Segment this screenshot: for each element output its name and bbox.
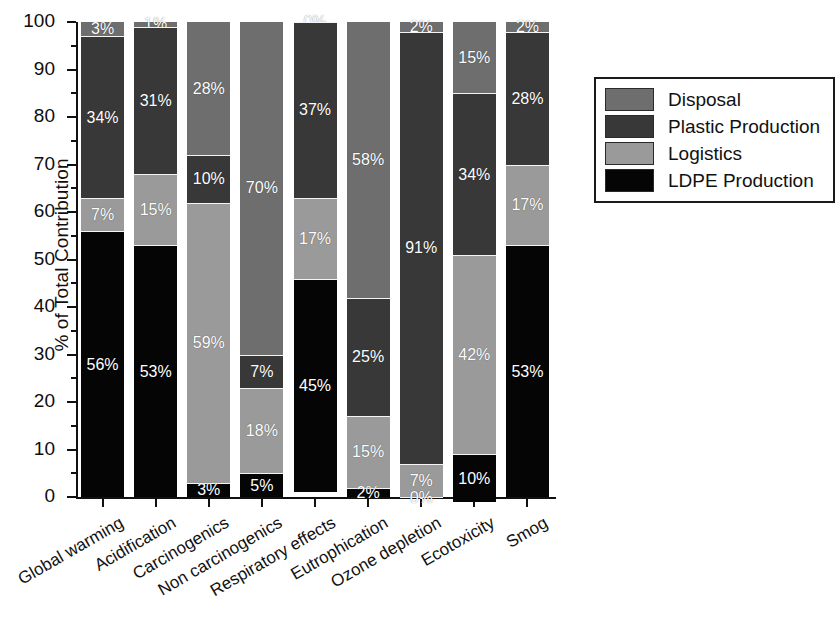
bar-segment[interactable]: 42%	[453, 255, 496, 455]
bar-segment[interactable]: 15%	[347, 416, 390, 487]
bar-segment[interactable]: 34%	[81, 36, 124, 198]
y-tick-minor	[71, 140, 76, 142]
bar-segment-label: 45%	[299, 378, 331, 394]
bar-segment-label: 15%	[140, 202, 172, 218]
y-tick-minor	[71, 235, 76, 237]
bar-segment-label: 42%	[458, 347, 490, 363]
y-tick-label: 40	[34, 295, 55, 317]
legend-item[interactable]: Disposal	[605, 86, 820, 113]
legend-label: Logistics	[668, 143, 742, 165]
x-axis-category-label: Smog	[503, 513, 551, 553]
bar-segment[interactable]: 56%	[81, 231, 124, 497]
bar-segment[interactable]: 28%	[506, 32, 549, 165]
bar-column[interactable]: 0%37%17%45%	[294, 22, 337, 497]
bar-segment[interactable]: 25%	[347, 298, 390, 417]
bar-segment[interactable]: 31%	[134, 27, 177, 174]
y-tick-label: 80	[34, 105, 55, 127]
bar-segment[interactable]: 53%	[506, 245, 549, 497]
bar-segment-label: 3%	[197, 482, 220, 498]
bar-segment-label: 15%	[352, 444, 384, 460]
y-tick-minor	[71, 92, 76, 94]
bar-segment[interactable]: 2%	[347, 488, 390, 498]
bar-segment-label: 53%	[140, 364, 172, 380]
bar-segment[interactable]: 3%	[81, 22, 124, 36]
bar-segment[interactable]: 0%	[400, 497, 443, 498]
bar-segment-label: 25%	[352, 349, 384, 365]
bar-segment[interactable]: 2%	[506, 22, 549, 32]
y-tick-minor	[71, 472, 76, 474]
plot-area: 0102030405060708090100 3%34%7%56%1%31%15…	[76, 22, 554, 497]
bar-segment[interactable]: 2%	[400, 22, 443, 32]
bar-segment[interactable]: 91%	[400, 32, 443, 464]
y-tick-major: 50	[67, 259, 76, 261]
x-tick	[208, 497, 210, 507]
legend-label: Plastic Production	[668, 116, 820, 138]
bar-segment-label: 70%	[246, 180, 278, 196]
y-tick-minor	[71, 330, 76, 332]
legend: DisposalPlastic ProductionLogisticsLDPE …	[594, 77, 835, 203]
y-tick-label: 10	[34, 437, 55, 459]
bar-column[interactable]: 2%28%17%53%	[506, 22, 549, 497]
bar-segment[interactable]: 10%	[187, 155, 230, 203]
bar-segment[interactable]: 15%	[453, 22, 496, 93]
bar-segment-label: 2%	[357, 485, 380, 501]
bar-segment-label: 91%	[405, 240, 437, 256]
bar-column[interactable]: 1%31%15%53%	[134, 22, 177, 497]
legend-label: LDPE Production	[668, 170, 814, 192]
y-tick-label: 20	[34, 390, 55, 412]
legend-item[interactable]: LDPE Production	[605, 167, 820, 194]
bar-segment-label: 3%	[91, 21, 114, 37]
y-tick-minor	[71, 425, 76, 427]
bar-segment[interactable]: 37%	[294, 22, 337, 198]
bar-segment-label: 58%	[352, 152, 384, 168]
bar-segment[interactable]: 17%	[506, 165, 549, 246]
bar-segment[interactable]: 70%	[240, 22, 283, 355]
y-tick-major: 30	[67, 354, 76, 356]
bar-segment[interactable]: 17%	[294, 198, 337, 279]
bar-segment[interactable]: 28%	[187, 22, 230, 155]
bar-segment[interactable]: 5%	[240, 473, 283, 497]
bar-segment[interactable]: 18%	[240, 388, 283, 474]
legend-swatch	[605, 88, 654, 111]
bar-segment-label: 56%	[87, 357, 119, 373]
y-tick-major: 60	[67, 211, 76, 213]
bar-segment[interactable]: 59%	[187, 203, 230, 483]
legend-item[interactable]: Logistics	[605, 140, 820, 167]
y-tick-label: 100	[23, 10, 55, 32]
bar-segment[interactable]: 58%	[347, 22, 390, 298]
y-tick-major: 0	[67, 496, 76, 498]
legend-item[interactable]: Plastic Production	[605, 113, 820, 140]
bar-segment[interactable]: 34%	[453, 93, 496, 255]
bar-segment[interactable]: 45%	[294, 279, 337, 493]
bar-column[interactable]: 70%7%18%5%	[240, 22, 283, 497]
bar-segment[interactable]: 3%	[187, 483, 230, 497]
bar-segment[interactable]: 53%	[134, 245, 177, 497]
bar-column[interactable]: 15%34%42%10%	[453, 22, 496, 497]
bar-segment-label: 7%	[250, 364, 273, 380]
bar-column[interactable]: 58%25%15%2%	[347, 22, 390, 497]
y-tick-minor	[71, 45, 76, 47]
bar-segment-label: 59%	[193, 335, 225, 351]
bar-column[interactable]: 2%91%7%0%	[400, 22, 443, 497]
bar-segment-label: 28%	[193, 81, 225, 97]
y-tick-label: 90	[34, 57, 55, 79]
bar-column[interactable]: 3%34%7%56%	[81, 22, 124, 497]
x-tick	[155, 497, 157, 507]
bar-column[interactable]: 28%10%59%3%	[187, 22, 230, 497]
bar-segment-label: 10%	[458, 471, 490, 487]
bar-segment-label: 5%	[250, 478, 273, 494]
bar-segment[interactable]: 15%	[134, 174, 177, 245]
bar-segment[interactable]: 7%	[240, 355, 283, 388]
y-tick-major: 20	[67, 401, 76, 403]
y-tick-label: 0	[44, 485, 55, 507]
y-tick-label: 30	[34, 342, 55, 364]
bar-segment-label: 10%	[193, 171, 225, 187]
bar-segment-label: 28%	[511, 91, 543, 107]
x-tick	[526, 497, 528, 507]
legend-label: Disposal	[668, 89, 741, 111]
bar-segment[interactable]: 7%	[81, 198, 124, 231]
y-tick-major: 100	[67, 21, 76, 23]
legend-swatch	[605, 169, 654, 192]
stacked-bar-chart: % of Total Contribution 0102030405060708…	[0, 0, 839, 622]
bar-segment[interactable]: 10%	[453, 454, 496, 502]
